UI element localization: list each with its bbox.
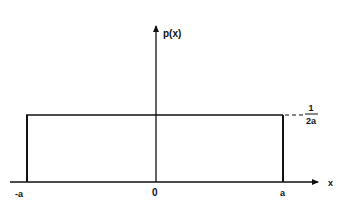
tick-label-origin: 0 bbox=[152, 187, 158, 198]
height-denominator: 2a bbox=[306, 116, 317, 126]
uniform-distribution-diagram: p(x) x -a 0 a 1 2a bbox=[0, 0, 342, 202]
y-axis-label: p(x) bbox=[163, 28, 181, 39]
x-axis-label: x bbox=[328, 178, 333, 188]
tick-label-a: a bbox=[280, 188, 286, 198]
height-numerator: 1 bbox=[308, 103, 313, 113]
tick-label-neg-a: -a bbox=[15, 189, 24, 199]
